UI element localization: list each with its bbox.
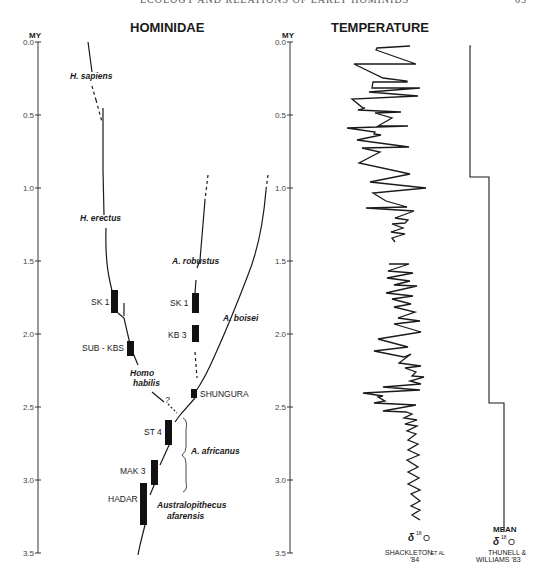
axis-tick-label: 3.0	[23, 476, 35, 485]
site-sub-kbs: SUB - KBS	[82, 343, 124, 353]
bar-hadar	[140, 483, 147, 525]
bar-kb3	[192, 325, 199, 342]
delta-sup-left: 18	[416, 530, 422, 536]
bar-st4	[165, 420, 172, 445]
label-a-boisei: A. boisei	[222, 313, 259, 323]
bar-sub-kbs	[127, 341, 134, 356]
site-st4: ST 4	[144, 427, 162, 437]
bar-shungura	[191, 389, 197, 398]
bar-mak3	[151, 460, 158, 485]
delta-sup-right: 18	[501, 534, 507, 540]
mean-label: MEAN	[493, 525, 517, 534]
delta-right: δ	[493, 536, 500, 547]
label-afarensis: afarensis	[167, 511, 205, 521]
axis-tick-label: 1.5	[275, 257, 287, 266]
axis-tick-label: 3.0	[275, 476, 287, 485]
label-h-erectus: H. erectus	[80, 213, 121, 223]
label-question: ?	[165, 395, 170, 405]
axis-tick-label: 2.0	[23, 330, 35, 339]
o-left: O	[423, 533, 430, 543]
axis-tick-label: 2.5	[23, 403, 35, 412]
bar-sk1-homo	[111, 290, 118, 313]
hominidae-title: HOMINIDAE	[130, 20, 205, 35]
label-australopithecus: Australopithecus	[156, 500, 227, 510]
label-a-robustus: A. robustus	[171, 256, 219, 266]
label-homo: Homo	[130, 368, 154, 378]
temperature-title: TEMPERATURE	[331, 20, 429, 35]
axis-tick-label: 2.5	[275, 403, 287, 412]
source-right-2: WILLIAMS '83	[476, 556, 521, 563]
source-left-2: '84	[410, 556, 419, 563]
o-right: O	[508, 537, 515, 547]
label-a-africanus: A. africanus	[190, 446, 240, 456]
label-h-sapiens: H. sapiens	[70, 71, 113, 81]
site-shungura: SHUNGURA	[200, 389, 249, 399]
axis-tick-label: 2.0	[275, 330, 287, 339]
axis-tick-label: 0.0	[23, 38, 35, 47]
temperature-curve	[347, 46, 426, 520]
site-mak3: MAK 3	[120, 466, 146, 476]
bar-sk1-robustus	[192, 293, 199, 313]
delta-left: δ	[408, 532, 415, 543]
source-right-1: THUNELL &	[488, 549, 527, 556]
axis-tick-label: 0.5	[275, 111, 287, 120]
site-sk1-homo: SK 1	[91, 297, 110, 307]
axis-tick-label: 0.5	[23, 111, 35, 120]
source-left-1: SHACKLETON	[385, 549, 432, 556]
site-sk1-robustus: SK 1	[170, 298, 189, 308]
label-habilis: habilis	[133, 378, 160, 388]
source-left-etal: ET AL	[431, 550, 445, 556]
site-kb3: KB 3	[168, 330, 187, 340]
site-hadar: HADAR	[108, 494, 138, 504]
figure: HOMINIDAE TEMPERATURE MY 0.00.51.01.52.0…	[0, 0, 545, 582]
axis-tick-label: 1.5	[23, 257, 35, 266]
axis-tick-label: 3.5	[23, 549, 35, 558]
left-axis: MY 0.00.51.01.52.02.53.03.5	[23, 31, 42, 558]
axis-tick-label: 1.0	[23, 184, 35, 193]
axis-tick-label: 1.0	[275, 184, 287, 193]
axis-tick-label: 3.5	[275, 549, 287, 558]
right-axis: MY 0.00.51.01.52.02.53.03.5	[275, 31, 295, 558]
africanus-brace	[182, 418, 187, 492]
axis-tick-label: 0.0	[275, 38, 287, 47]
mean-delta18o-line	[470, 46, 504, 531]
